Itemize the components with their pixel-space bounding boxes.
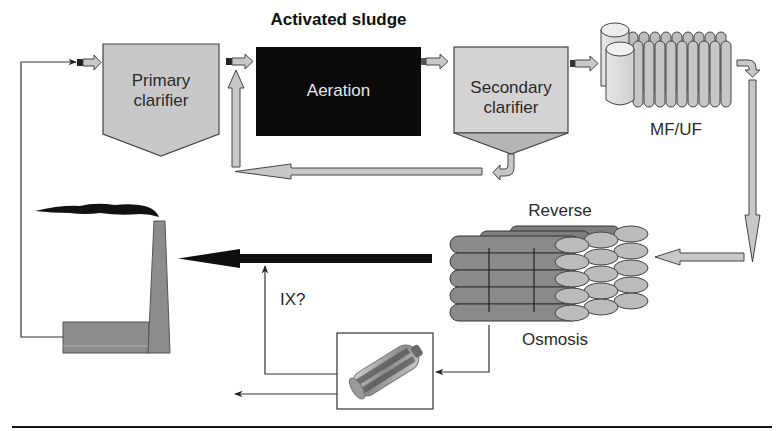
factory-icon: [35, 204, 170, 353]
ix-label: IX?: [280, 290, 320, 310]
diagram-canvas: [0, 0, 780, 431]
feed-line-factory-to-primary: [21, 62, 76, 337]
mf-uf-membranes: [601, 23, 731, 107]
product-water-arrow: [178, 249, 432, 268]
reverse-osmosis-modules: [450, 226, 648, 321]
secondary-clarifier-label: Secondary clarifier: [454, 78, 568, 117]
arrow-into-ro: [655, 249, 744, 265]
mfuf-outlet-hook-arrow: [737, 60, 760, 77]
primary-clarifier-label: Primary clarifier: [103, 71, 219, 110]
ion-exchange-unit: [337, 333, 433, 409]
ro-label-bottom: Osmosis: [505, 330, 605, 350]
inlet-arrow-primary: [77, 55, 101, 70]
return-sludge-riser-arrow: [228, 70, 244, 167]
primary-clarifier-label-line2: clarifier: [103, 91, 219, 111]
primary-clarifier-label-line1: Primary: [103, 71, 219, 91]
aeration-label: Aeration: [256, 81, 421, 101]
return-sludge-arrow: [235, 164, 482, 179]
diagram-title: Activated sludge: [256, 10, 421, 30]
ro-label-top: Reverse: [510, 201, 610, 221]
arrow-mfuf-to-ro-down: [745, 80, 760, 262]
arrow-secondary-to-mfuf: [570, 56, 598, 71]
arrow-aeration-to-secondary: [421, 54, 448, 69]
secondary-clarifier-label-line1: Secondary: [454, 78, 568, 98]
sludge-hook-arrow: [493, 154, 514, 180]
line-ro-to-ix: [436, 325, 489, 372]
secondary-clarifier-label-line2: clarifier: [454, 98, 568, 118]
line-ix-to-product: [265, 266, 337, 374]
arrow-primary-to-aeration: [226, 54, 253, 69]
mf-uf-label: MF/UF: [636, 120, 716, 140]
